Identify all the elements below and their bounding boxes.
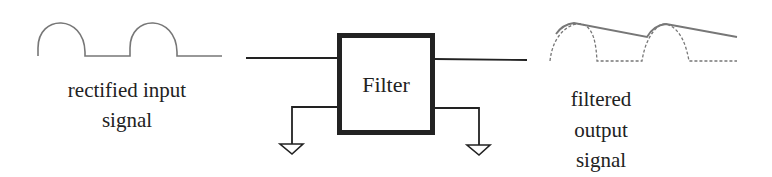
output-label-line2: output — [574, 118, 628, 142]
filtered-output-waveform — [556, 23, 737, 37]
input-label-line1: rectified input — [68, 78, 187, 102]
output-ground-wire — [434, 108, 479, 145]
input-ground-wire — [292, 107, 338, 144]
rectified-input-waveform — [38, 23, 222, 56]
input-label-line2: signal — [102, 108, 152, 132]
input-ground-icon — [280, 144, 303, 154]
output-label-line3: signal — [576, 148, 626, 172]
output-wire — [434, 59, 527, 60]
filter-diagram: rectified input signal Filter filtered o… — [0, 0, 772, 177]
output-label-line1: filtered — [571, 87, 632, 111]
output-ground-icon — [467, 145, 490, 155]
output-dashed-rectified-wave — [550, 24, 737, 61]
filter-label: Filter — [362, 72, 410, 97]
